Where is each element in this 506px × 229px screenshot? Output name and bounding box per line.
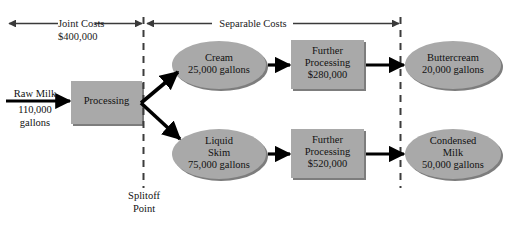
joint-costs-amount: $400,000 (58, 30, 96, 43)
further-processing-top-box-shape (291, 40, 364, 89)
splitoff-point-line2: Point (108, 203, 180, 216)
split-arrow-to-liquid-skim (141, 103, 180, 139)
raw-milk-input-label: Raw Milk 110,000 gallons (0, 88, 70, 129)
processing-box-shape (71, 81, 142, 124)
joint-costs-label: Joint Costs $400,000 (58, 17, 96, 43)
process-flow-diagram: Joint Costs $400,000 Separable Costs Spl… (0, 0, 506, 229)
liquid-skim-ellipse-shape (172, 129, 266, 179)
raw-milk-line3: gallons (0, 117, 70, 129)
splitoff-point-line1: Splitoff (108, 190, 180, 203)
separable-costs-label: Separable Costs (212, 17, 294, 30)
split-arrow-to-cream (141, 72, 178, 103)
condensed-milk-ellipse-shape (405, 129, 501, 179)
cream-ellipse-shape (172, 41, 266, 89)
raw-milk-line2: 110,000 (0, 104, 70, 116)
raw-milk-line1: Raw Milk (0, 88, 70, 100)
buttercream-ellipse-shape (405, 41, 501, 89)
further-processing-bottom-box-shape (291, 129, 364, 178)
joint-costs-title: Joint Costs (58, 17, 96, 30)
splitoff-point-label: Splitoff Point (108, 190, 180, 215)
separable-costs-title: Separable Costs (212, 17, 294, 30)
shape-fills (71, 40, 501, 179)
